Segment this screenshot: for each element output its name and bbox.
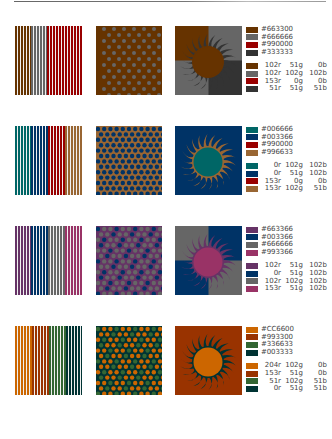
color-chip [246, 78, 258, 84]
stripe [15, 226, 31, 295]
rgb-r-value: 153r [261, 185, 281, 193]
rgb-g-value: 102g [281, 185, 303, 193]
color-chip [246, 371, 258, 377]
color-chip [246, 263, 258, 269]
color-chip [246, 342, 258, 348]
stripe [15, 26, 31, 95]
stripe-swatch [15, 26, 82, 95]
rgb-g-value: 51g [281, 385, 303, 393]
color-chip [246, 134, 258, 140]
dot-pattern-swatch [96, 226, 162, 295]
color-legend: #663366#003366#666666#993366 102r51g102b… [246, 226, 332, 293]
color-chip [246, 327, 258, 333]
hex-item: #003333 [246, 349, 332, 357]
sun-illustration [175, 226, 242, 295]
color-chip [246, 127, 258, 133]
rgb-g-value: 51g [281, 285, 303, 293]
rgb-b-value: 51b [303, 185, 327, 193]
stripe [65, 226, 82, 295]
color-legend: #663300#666666#990000#333333 102r51g0b10… [246, 26, 332, 93]
color-chip [246, 27, 258, 33]
color-chip [246, 363, 258, 369]
color-chip [246, 171, 258, 177]
color-chip [246, 150, 258, 156]
rgb-item: 153r51g102b [246, 285, 332, 293]
rgb-item: 153r102g51b [246, 185, 332, 193]
color-chip [246, 242, 258, 248]
palette-row-4: #CC6600#993300#336633#003333 204r102g0b1… [0, 326, 332, 398]
color-chip [246, 378, 258, 384]
color-chip [246, 278, 258, 284]
rgb-g-value: 51g [281, 85, 303, 93]
stripe [66, 326, 82, 395]
sun-illustration [175, 326, 242, 395]
color-chip [246, 386, 258, 392]
rgb-list: 204r102g0b153r51g0b51r102g51b0r51g51b [246, 362, 332, 392]
rgb-item: 0r51g51b [246, 385, 332, 393]
hex-item: #993366 [246, 249, 332, 257]
color-chip [246, 334, 258, 340]
color-chip [246, 163, 258, 169]
stripe [47, 26, 82, 95]
rgb-b-value: 51b [303, 85, 327, 93]
stripe [48, 226, 65, 295]
rgb-b-value: 102b [303, 285, 327, 293]
rgb-b-value: 51b [303, 385, 327, 393]
dot-pattern-swatch [96, 126, 162, 195]
rgb-r-value: 153r [261, 285, 281, 293]
color-legend: #006666#003366#990000#996633 0r102g102b0… [246, 126, 332, 193]
color-chip [246, 71, 258, 77]
hex-item: #333333 [246, 49, 332, 57]
stripe [31, 126, 48, 195]
color-chip [246, 250, 258, 256]
rgb-list: 102r51g0b102r102g102b153r0g0b51r51g51b [246, 62, 332, 92]
hex-item: #996633 [246, 149, 332, 157]
hex-list: #663300#666666#990000#333333 [246, 26, 332, 56]
stripe-swatch [15, 226, 82, 295]
palette-row-3: #663366#003366#666666#993366 102r51g102b… [0, 226, 332, 298]
rgb-list: 0r102g102b0r51g102b153r0g0b153r102g51b [246, 162, 332, 192]
color-chip [246, 350, 258, 356]
color-chip [246, 50, 258, 56]
hex-label: #333333 [261, 49, 293, 57]
hex-list: #006666#003366#990000#996633 [246, 126, 332, 156]
palette-row-1: #663300#666666#990000#333333 102r51g0b10… [0, 26, 332, 98]
stripe [15, 326, 32, 395]
color-chip [246, 34, 258, 40]
stripe [48, 126, 65, 195]
stripe [49, 326, 66, 395]
sun-illustration [175, 126, 242, 195]
stripe-swatch [15, 326, 82, 395]
color-chip [246, 42, 258, 48]
hex-label: #996633 [261, 149, 293, 157]
stripe-swatch [15, 126, 82, 195]
color-chip [246, 234, 258, 240]
color-chip [246, 286, 258, 292]
sun-illustration [175, 26, 242, 95]
rgb-r-value: 0r [261, 385, 281, 393]
stripe [31, 226, 48, 295]
hex-label: #003333 [261, 349, 293, 357]
color-chip [246, 227, 258, 233]
top-rule [14, 1, 326, 2]
color-chip [246, 271, 258, 277]
stripe [15, 126, 31, 195]
color-chip [246, 63, 258, 69]
color-legend: #CC6600#993300#336633#003333 204r102g0b1… [246, 326, 332, 393]
stripe [31, 26, 47, 95]
color-chip [246, 186, 258, 192]
stripe [32, 326, 49, 395]
hex-list: #CC6600#993300#336633#003333 [246, 326, 332, 356]
dot-pattern-swatch [96, 26, 162, 95]
color-chip [246, 178, 258, 184]
color-chip [246, 142, 258, 148]
hex-list: #663366#003366#666666#993366 [246, 226, 332, 256]
palette-row-2: #006666#003366#990000#996633 0r102g102b0… [0, 126, 332, 198]
hex-label: #993366 [261, 249, 293, 257]
rgb-item: 51r51g51b [246, 85, 332, 93]
dot-pattern-swatch [96, 326, 162, 395]
color-chip [246, 86, 258, 92]
rgb-r-value: 51r [261, 85, 281, 93]
stripe [65, 126, 82, 195]
rgb-list: 102r51g102b0r51g102b102r102g102b153r51g1… [246, 262, 332, 292]
